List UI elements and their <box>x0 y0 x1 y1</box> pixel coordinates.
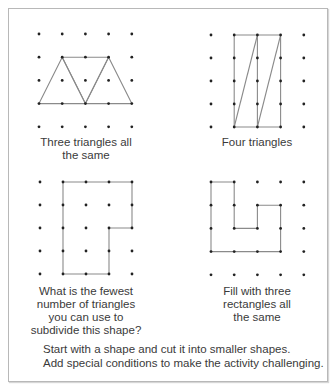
grid-dot <box>256 273 259 276</box>
grid-dot <box>131 273 134 276</box>
grid-dot <box>130 79 133 82</box>
grid-dot <box>107 56 110 59</box>
grid-dot <box>256 204 259 207</box>
grid-dot <box>302 57 305 60</box>
grid-dot <box>108 250 111 253</box>
grid-dot <box>84 125 87 128</box>
grid-dot <box>38 102 41 105</box>
grid-dot <box>84 79 87 82</box>
grid-dot <box>39 181 42 184</box>
grid-dot <box>210 250 213 253</box>
grid-dot <box>61 79 64 82</box>
grid-dot <box>233 181 236 184</box>
grid-dot <box>302 181 305 184</box>
grid-dot <box>256 227 259 230</box>
grid-dot <box>38 79 41 82</box>
grid-dot <box>256 250 259 253</box>
grid-dot <box>233 126 236 129</box>
grid-dot <box>130 33 133 36</box>
grid-dot <box>256 181 259 184</box>
grid-dot <box>233 227 236 230</box>
grid-dot <box>302 250 305 253</box>
grid-dot <box>62 273 65 276</box>
grid-dot <box>302 273 305 276</box>
grid-dot <box>85 227 88 230</box>
grid-dot <box>279 126 282 129</box>
grid-dot <box>233 204 236 207</box>
grid-dot <box>108 181 111 184</box>
grid-dot <box>39 204 42 207</box>
grid-dot <box>84 56 87 59</box>
grid-dot <box>256 34 259 37</box>
grid-dot <box>279 227 282 230</box>
shape-outline <box>211 182 281 252</box>
grid-dot <box>279 80 282 83</box>
grid-dot <box>279 273 282 276</box>
footer-line-1: Start with a shape and cut it into small… <box>43 343 323 357</box>
grid-dot <box>130 56 133 59</box>
grid-dot <box>210 227 213 230</box>
grid-dot <box>131 227 134 230</box>
grid-dot <box>62 181 65 184</box>
grid-dot <box>62 204 65 207</box>
grid-dot <box>39 273 42 276</box>
grid-dot <box>256 103 259 106</box>
grid-dot <box>131 181 134 184</box>
grid-dot <box>210 181 213 184</box>
grid-dot <box>39 227 42 230</box>
grid-dot <box>107 33 110 36</box>
grid-dot <box>233 80 236 83</box>
grid-dot <box>108 227 111 230</box>
caption-four-triangles: Four triangles <box>182 136 332 149</box>
grid-dot <box>85 204 88 207</box>
grid-dot <box>85 250 88 253</box>
grid-dot <box>62 250 65 253</box>
grid-dot <box>256 126 259 129</box>
grid-dot <box>233 250 236 253</box>
grid-dot <box>233 103 236 106</box>
grid-dot <box>84 102 87 105</box>
grid-dot <box>107 125 110 128</box>
grid-dot <box>39 250 42 253</box>
grid-dot <box>210 80 213 83</box>
grid-dot <box>302 34 305 37</box>
panel-four-triangles <box>210 34 306 129</box>
grid-dot <box>130 125 133 128</box>
shape-diagonal-line <box>234 35 257 127</box>
grid-dot <box>302 204 305 207</box>
grid-dot <box>279 250 282 253</box>
panel-three-rectangles <box>210 181 306 277</box>
caption-three-rectangles: Fill with three rectangles all the same <box>182 285 332 324</box>
panel-three-triangles <box>38 33 134 129</box>
footer-line-2: Add special conditions to make the activ… <box>43 357 323 371</box>
grid-dot <box>108 204 111 207</box>
grid-dot <box>107 102 110 105</box>
grid-dot <box>38 125 41 128</box>
grid-dot <box>233 273 236 276</box>
grid-dot <box>302 103 305 106</box>
grid-dot <box>279 57 282 60</box>
grid-dot <box>302 126 305 129</box>
grid-dot <box>256 80 259 83</box>
caption-three-triangles: Three triangles all the same <box>11 136 161 162</box>
shape-diagonal-line <box>257 35 280 127</box>
footer-instructions: Start with a shape and cut it into small… <box>43 343 323 370</box>
grid-dot <box>38 56 41 59</box>
grid-dot <box>38 33 41 36</box>
grid-dot <box>85 273 88 276</box>
panel-fewest-triangles <box>39 181 134 276</box>
grid-dot <box>210 273 213 276</box>
grid-dot <box>108 273 111 276</box>
grid-dot <box>233 57 236 60</box>
grid-dot <box>85 181 88 184</box>
grid-dot <box>210 103 213 106</box>
grid-dot <box>131 204 134 207</box>
grid-dot <box>61 125 64 128</box>
grid-dot <box>210 204 213 207</box>
grid-dot <box>130 102 133 105</box>
grid-dot <box>302 227 305 230</box>
grid-dot <box>61 33 64 36</box>
grid-dot <box>210 126 213 129</box>
grid-dot <box>279 204 282 207</box>
grid-dot <box>302 80 305 83</box>
